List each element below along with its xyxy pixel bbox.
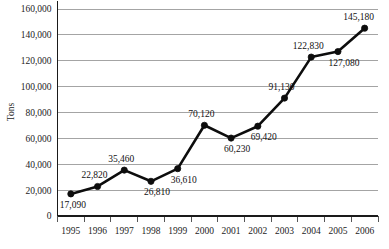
data-point-label: 60,230 <box>224 144 250 154</box>
data-point-label: 145,180 <box>343 12 374 22</box>
y-axis-tick-label: 160,000 <box>21 4 52 14</box>
chart-canvas: 020,00040,00060,00080,000100,000120,0001… <box>0 0 389 249</box>
x-axis-tick-label: 2004 <box>302 226 321 236</box>
y-axis-tick-label: 140,000 <box>21 30 52 40</box>
data-point-marker <box>308 54 314 60</box>
x-axis-tick-label: 1997 <box>115 226 134 236</box>
data-point-marker <box>175 166 181 172</box>
y-axis-tick-label: 120,000 <box>21 56 52 66</box>
y-axis-tick-label: 100,000 <box>21 82 52 92</box>
data-point-marker <box>148 178 154 184</box>
x-axis-tick-label: 2003 <box>275 226 294 236</box>
data-point-marker <box>121 167 127 173</box>
x-axis-tick-label: 2002 <box>248 226 267 236</box>
data-point-label: 127,080 <box>329 58 360 68</box>
data-point-marker <box>362 25 368 31</box>
data-point-label: 122,830 <box>293 41 324 51</box>
x-axis-tick-label: 2006 <box>355 226 374 236</box>
x-axis-tick-label: 1999 <box>168 226 187 236</box>
data-point-label: 69,420 <box>251 132 277 142</box>
data-point-labels: 17,09022,82035,46026,81036,61070,12060,2… <box>60 12 375 210</box>
x-axis-tick-label: 2001 <box>222 226 241 236</box>
y-axis-title: Tons <box>6 103 16 122</box>
data-point-marker <box>255 123 261 129</box>
x-axis-tick-label: 1998 <box>141 226 160 236</box>
data-point-marker <box>228 135 234 141</box>
line-chart: 020,00040,00060,00080,000100,000120,0001… <box>0 0 389 249</box>
y-axis-tick-label: 80,000 <box>25 108 51 118</box>
x-axis-tick-labels: 1995199619971998199920002001200220032004… <box>61 226 374 236</box>
data-point-label: 35,460 <box>108 154 134 164</box>
y-axis-tick-labels: 020,00040,00060,00080,000100,000120,0001… <box>21 4 52 221</box>
data-point-marker <box>94 183 100 189</box>
data-point-marker <box>335 48 341 54</box>
y-axis-tick-label: 0 <box>47 211 52 221</box>
y-axis-tick-label: 60,000 <box>25 134 51 144</box>
gridlines <box>58 9 379 190</box>
y-axis-tick-label: 20,000 <box>25 186 51 196</box>
x-axis-tick-label: 2000 <box>195 226 214 236</box>
x-axis-tick-label: 1995 <box>61 226 80 236</box>
data-point-marker <box>68 191 74 197</box>
data-point-label: 17,090 <box>60 200 86 210</box>
x-axis-tickmarks <box>58 216 379 222</box>
data-point-label: 36,610 <box>171 175 197 185</box>
x-axis-tick-label: 2005 <box>328 226 347 236</box>
x-axis-tick-label: 1996 <box>88 226 107 236</box>
y-axis-tick-label: 40,000 <box>25 160 51 170</box>
data-point-label: 91,130 <box>268 82 294 92</box>
data-point-label: 26,810 <box>144 187 170 197</box>
data-point-marker <box>201 122 207 128</box>
data-point-label: 22,820 <box>81 170 107 180</box>
data-point-marker <box>281 95 287 101</box>
series-line-tons <box>71 28 365 194</box>
data-point-label: 70,120 <box>188 109 214 119</box>
